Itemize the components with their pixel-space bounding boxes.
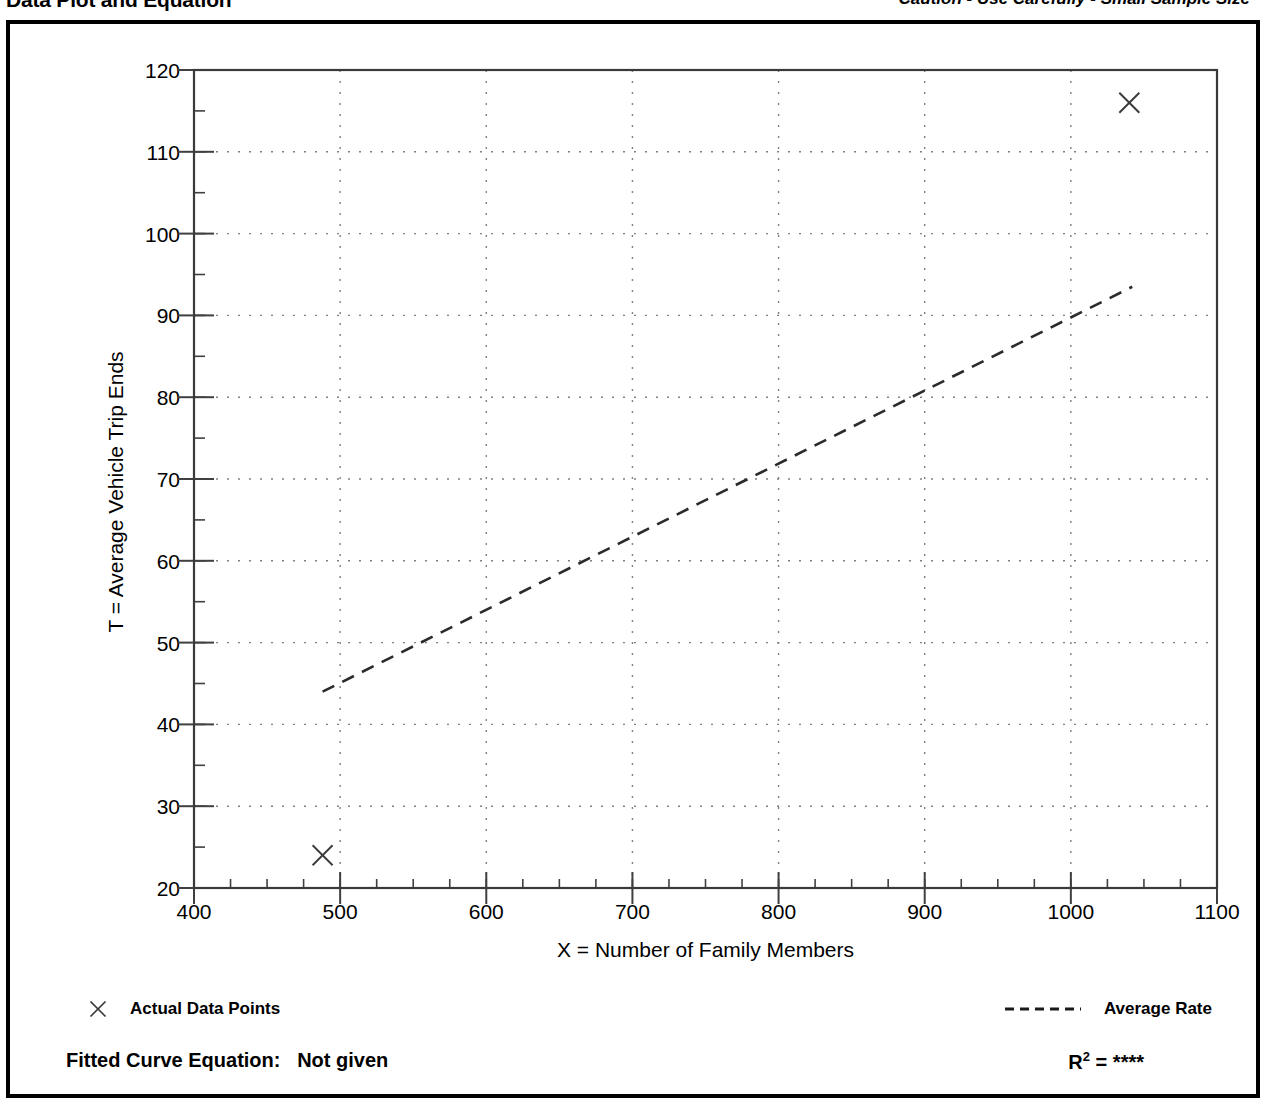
- y-axis-tick-label: 90: [157, 305, 180, 326]
- plot-svg: [194, 70, 1217, 888]
- x-axis-tick-label: 1100: [1194, 900, 1239, 924]
- r-squared-exponent: 2: [1083, 1049, 1090, 1064]
- y-axis-tick-labels: 2030405060708090100110120: [100, 70, 180, 888]
- legend-item-average-rate: Average Rate: [1004, 999, 1212, 1019]
- fitted-curve-equation: Fitted Curve Equation: Not given: [66, 1049, 388, 1072]
- y-axis-tick-label: 30: [157, 796, 180, 817]
- page-title: Data Plot and Equation: [6, 0, 231, 12]
- r-squared-symbol: R: [1068, 1051, 1082, 1073]
- y-axis-tick-label: 50: [157, 632, 180, 653]
- chart-panel: T = Average Vehicle Trip Ends 2030405060…: [6, 20, 1260, 1098]
- legend-label-data-points: Actual Data Points: [130, 999, 280, 1019]
- legend-label-average-rate: Average Rate: [1104, 999, 1212, 1019]
- cross-marker-icon: [88, 999, 108, 1019]
- y-axis-tick-label: 80: [157, 387, 180, 408]
- legend-item-data-points: Actual Data Points: [88, 999, 280, 1019]
- y-axis-tick-label: 20: [157, 878, 180, 899]
- x-axis-tick-labels: 40050060070080090010001100: [194, 900, 1217, 930]
- plot-area: [194, 70, 1217, 888]
- y-axis-tick-label: 70: [157, 469, 180, 490]
- y-axis-tick-label: 100: [145, 223, 180, 244]
- chart-legend: Actual Data Points Average Rate: [10, 999, 1264, 1033]
- x-axis-tick-label: 700: [615, 900, 650, 924]
- trend-line-average-rate: [323, 287, 1133, 692]
- x-axis-title: X = Number of Family Members: [194, 938, 1217, 962]
- fitted-curve-equation-label: Fitted Curve Equation:: [66, 1049, 280, 1071]
- chart-footer: Fitted Curve Equation: Not given R2 = **…: [10, 1049, 1264, 1089]
- r-squared-value: R2 = ****: [1068, 1049, 1144, 1074]
- y-axis-tick-label: 40: [157, 714, 180, 735]
- y-axis-tick-label: 110: [147, 141, 180, 162]
- x-axis-tick-label: 400: [176, 900, 211, 924]
- x-axis-tick-label: 1000: [1047, 900, 1094, 924]
- r-squared-equals: =: [1096, 1051, 1108, 1073]
- r-squared-stars: ****: [1113, 1051, 1144, 1073]
- y-axis-title-container: T = Average Vehicle Trip Ends: [66, 70, 96, 888]
- major-ticks: [178, 70, 1217, 904]
- y-axis-tick-label: 120: [145, 60, 180, 81]
- data-point-marker: [313, 845, 333, 865]
- page-header: Data Plot and Equation Caution - Use Car…: [0, 0, 1268, 16]
- y-axis-tick-label: 60: [157, 550, 180, 571]
- x-axis-tick-label: 800: [761, 900, 796, 924]
- dashed-line-icon: [1004, 1007, 1082, 1011]
- data-point-marker: [1119, 93, 1139, 113]
- x-axis-tick-label: 600: [469, 900, 504, 924]
- x-axis-tick-label: 900: [907, 900, 942, 924]
- fitted-curve-equation-value: Not given: [297, 1049, 388, 1071]
- caution-note: Caution - Use Carefully - Small Sample S…: [899, 0, 1250, 9]
- grid-lines: [194, 70, 1217, 888]
- x-axis-tick-label: 500: [323, 900, 358, 924]
